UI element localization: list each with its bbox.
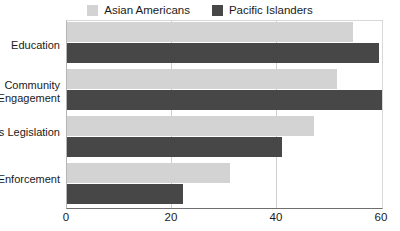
bar-group-more-law-enforcement <box>67 162 382 208</box>
legend-label-pacific-islanders: Pacific Islanders <box>229 4 313 16</box>
x-axis-tick-0: 0 <box>63 211 69 224</box>
legend-item-pacific-islanders: Pacific Islanders <box>212 4 313 16</box>
bar-civil-rights-legislation-asian-americans <box>67 116 314 136</box>
bar-community-engagement-pacific-islanders <box>67 90 382 110</box>
legend-swatch-asian-americans <box>87 5 98 16</box>
x-axis-tick-60: 60 <box>375 211 388 224</box>
bar-group-civil-rights-legislation <box>67 115 382 161</box>
bar-group-education <box>67 21 382 67</box>
y-axis-label-more-law-enforcement: More Law Enforcement <box>0 173 60 186</box>
legend-item-asian-americans: Asian Americans <box>87 4 190 16</box>
bar-community-engagement-asian-americans <box>67 69 337 89</box>
bar-education-pacific-islanders <box>67 43 379 63</box>
bar-more-law-enforcement-asian-americans <box>67 163 230 183</box>
bar-chart: Asian Americans Pacific Islanders <box>0 0 400 231</box>
bar-education-asian-americans <box>67 22 353 42</box>
bar-civil-rights-legislation-pacific-islanders <box>67 137 282 157</box>
legend-swatch-pacific-islanders <box>212 5 223 16</box>
x-axis-tick-20: 20 <box>165 211 178 224</box>
y-axis-label-community-engagement: Community Engagement <box>0 79 60 104</box>
y-axis-label-education: Education <box>0 39 60 52</box>
bar-group-community-engagement <box>67 68 382 114</box>
bars-layer <box>67 21 382 208</box>
y-axis-label-civil-rights-legislation: Civil Rights Legislation <box>0 126 60 139</box>
chart-legend: Asian Americans Pacific Islanders <box>0 0 400 20</box>
legend-label-asian-americans: Asian Americans <box>104 4 190 16</box>
bar-more-law-enforcement-pacific-islanders <box>67 184 183 204</box>
x-axis-tick-40: 40 <box>270 211 283 224</box>
